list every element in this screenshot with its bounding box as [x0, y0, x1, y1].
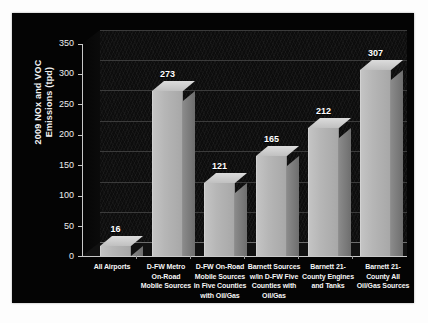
x-category-label-3-line-1: w/in D-FW Five — [246, 272, 302, 282]
x-category-label-2-line-2: in Five Counties — [192, 281, 248, 291]
y-tick-label-50: 50 — [34, 222, 74, 231]
x-category-label-4: Barnett 21- County Engines and Tanks — [300, 262, 356, 291]
bar-1-front — [152, 91, 183, 256]
x-tick-1 — [190, 256, 191, 259]
x-category-label-1: D-FW Metro On-Road Mobile Sources — [138, 262, 194, 291]
y-tick-label-150: 150 — [34, 161, 74, 170]
bar-1: 273 — [152, 91, 183, 256]
y-tick-mark-300 — [78, 74, 82, 75]
bar-3: 165 — [256, 156, 287, 256]
x-category-label-3-line-0: Barnett Sources — [246, 262, 302, 272]
y-tick-mark-0 — [78, 256, 82, 257]
x-category-label-3: Barnett Sources w/in D-FW Five Counties … — [246, 262, 302, 300]
x-category-label-5-line-0: Barnett 21- — [354, 262, 412, 272]
y-tick-label-300: 300 — [34, 69, 74, 78]
x-category-label-1-line-1: On-Road — [138, 272, 194, 282]
y-tick-label-200: 200 — [34, 130, 74, 139]
x-tick-4 — [352, 256, 353, 259]
bar-5-side — [391, 70, 403, 256]
x-tick-2 — [244, 256, 245, 259]
bar-4-value: 212 — [302, 106, 345, 116]
x-category-label-2-line-0: D-FW On-Road — [192, 262, 248, 272]
gridline-300 — [100, 60, 407, 61]
y-tick-mark-50 — [78, 226, 82, 227]
y-tick-mark-350 — [78, 44, 82, 45]
x-tick-0 — [136, 256, 137, 259]
bar-5: 307 — [360, 70, 391, 256]
bar-3-side — [287, 156, 299, 256]
bar-2: 121 — [204, 183, 235, 256]
x-category-label-2-line-1: Mobile Sources — [192, 272, 248, 282]
x-category-label-5-line-2: Oil/Gas Sources — [354, 281, 412, 291]
x-category-label-1-line-2: Mobile Sources — [138, 281, 194, 291]
chart-canvas: 2009 NOx and VOC Emissions (tpd) — [12, 13, 414, 303]
x-category-label-4-line-2: and Tanks — [300, 281, 356, 291]
x-category-label-0: All Airports — [84, 262, 140, 272]
bar-5-value: 307 — [354, 48, 397, 58]
x-category-label-3-line-3: Oil/Gas — [246, 291, 302, 301]
bar-2-side — [235, 183, 247, 256]
y-tick-label-350: 350 — [34, 39, 74, 48]
bar-0-value: 16 — [94, 224, 137, 234]
bar-0: 16 — [100, 246, 131, 256]
gridline-350 — [100, 30, 407, 31]
x-category-label-2-line-3: with Oil/Gas — [192, 291, 248, 301]
bar-5-front — [360, 70, 391, 256]
x-category-label-2: D-FW On-Road Mobile Sources in Five Coun… — [192, 262, 248, 300]
y-tick-mark-200 — [78, 135, 82, 136]
bar-4: 212 — [308, 128, 339, 256]
bar-4-front — [308, 128, 339, 256]
y-tick-label-100: 100 — [34, 191, 74, 200]
y-tick-mark-150 — [78, 165, 82, 166]
x-category-label-5-line-1: County All — [354, 272, 412, 282]
bar-3-front — [256, 156, 287, 256]
x-category-label-4-line-0: Barnett 21- — [300, 262, 356, 272]
bar-2-front — [204, 183, 235, 256]
x-category-label-5: Barnett 21- County All Oil/Gas Sources — [354, 262, 412, 291]
plot-wall-left — [82, 30, 100, 256]
y-tick-label-0: 0 — [34, 252, 74, 261]
bar-3-value: 165 — [250, 134, 293, 144]
y-tick-label-250: 250 — [34, 100, 74, 109]
x-category-label-4-line-1: County Engines — [300, 272, 356, 282]
y-tick-mark-250 — [78, 104, 82, 105]
x-tick-3 — [298, 256, 299, 259]
plot-area: 350 300 250 200 150 100 50 0 16 273 — [12, 13, 414, 303]
x-category-label-1-line-0: D-FW Metro — [138, 262, 194, 272]
bar-1-side — [183, 91, 195, 256]
y-axis-line — [82, 44, 83, 256]
chart-page: 2009 NOx and VOC Emissions (tpd) — [0, 0, 428, 323]
bar-4-side — [339, 128, 351, 256]
bar-0-front — [100, 246, 131, 256]
y-tick-mark-100 — [78, 196, 82, 197]
bar-2-value: 121 — [198, 161, 241, 171]
bar-1-value: 273 — [146, 69, 189, 79]
x-category-label-0-line-0: All Airports — [84, 262, 140, 272]
x-category-label-3-line-2: Counties with — [246, 281, 302, 291]
